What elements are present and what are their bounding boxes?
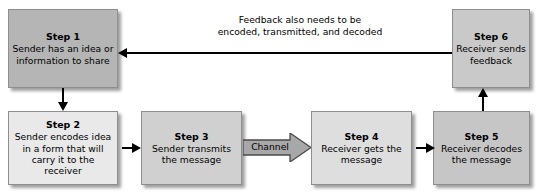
step-2-description: Sender encodes idea in a form that will … — [12, 131, 114, 176]
process-box-step-1[interactable]: Step 1 Sender has an idea or information… — [8, 9, 118, 88]
step5-step6-arrowhead-icon — [478, 88, 488, 97]
step-5-description: Receiver decodes the message — [437, 143, 526, 166]
step-3-title: Step 3 — [174, 131, 208, 143]
step2-step3-arrowhead-icon — [132, 143, 141, 153]
step1-step2-arrowhead-icon — [58, 102, 68, 111]
step-5-title: Step 5 — [464, 131, 498, 143]
step-6-title: Step 6 — [474, 31, 508, 43]
step1-step2-line — [62, 88, 64, 103]
process-box-step-3[interactable]: Step 3 Sender transmits the message — [141, 111, 242, 185]
process-box-step-4[interactable]: Step 4 Receiver gets the message — [311, 111, 412, 185]
step-6-description: Receiver sends feedback — [456, 43, 526, 66]
feedback-arrowhead-icon — [118, 48, 127, 58]
step-4-description: Receiver gets the message — [315, 143, 408, 166]
step-4-title: Step 4 — [344, 131, 378, 143]
step-2-title: Step 2 — [46, 119, 80, 131]
step5-step6-line — [482, 96, 484, 111]
channel-label: Channel — [243, 140, 297, 153]
communication-process-diagram: Step 1 Sender has an idea or information… — [0, 0, 539, 192]
feedback-line — [127, 52, 452, 54]
step-3-description: Sender transmits the message — [145, 143, 238, 166]
process-box-step-5[interactable]: Step 5 Receiver decodes the message — [433, 111, 530, 185]
process-box-step-2[interactable]: Step 2 Sender encodes idea in a form tha… — [8, 111, 118, 185]
step-1-description: Sender has an idea or information to sha… — [12, 43, 114, 66]
process-box-step-6[interactable]: Step 6 Receiver sends feedback — [452, 9, 530, 88]
step4-step5-arrowhead-icon — [426, 143, 435, 153]
feedback-caption: Feedback also needs to be encoded, trans… — [170, 14, 430, 38]
feedback-caption-line-2: encoded, transmitted, and decoded — [170, 26, 430, 38]
step-1-title: Step 1 — [46, 31, 80, 43]
feedback-caption-line-1: Feedback also needs to be — [170, 14, 430, 26]
